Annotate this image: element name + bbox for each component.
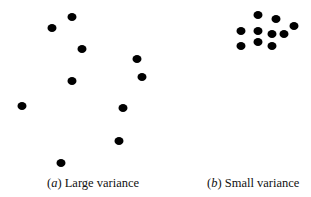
data-point-dot: [237, 42, 246, 50]
data-point-dot: [272, 15, 281, 23]
caption-large-variance: (a) Large variance: [47, 176, 139, 190]
data-point-dot: [280, 30, 289, 38]
caption-small-variance: (b) Small variance: [207, 176, 299, 190]
caption-label-close: ): [217, 176, 221, 190]
caption-text: Small variance: [225, 176, 300, 190]
data-point-dot: [268, 42, 277, 50]
data-point-dot: [254, 38, 263, 46]
data-point-dot: [237, 27, 246, 35]
data-point-dot: [268, 30, 277, 38]
data-point-dot: [254, 11, 263, 19]
caption-label-close: ): [57, 176, 61, 190]
data-point-dot: [290, 22, 299, 30]
caption-text: Large variance: [65, 176, 139, 190]
panel-small-variance: [0, 0, 311, 197]
data-point-dot: [254, 27, 263, 35]
